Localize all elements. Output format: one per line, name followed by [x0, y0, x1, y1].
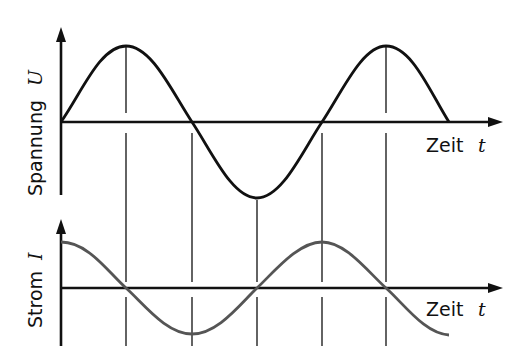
y-arrow-icon [56, 27, 66, 42]
y-arrow-icon [56, 219, 66, 234]
current-axis-label: Strom [24, 271, 46, 328]
current-symbol: I [24, 252, 46, 261]
x-arrow-icon [488, 117, 503, 127]
voltage-axis-label: Spannung [24, 100, 46, 196]
voltage-current-phase-diagram: Spannung U Zeit t Strom I Zeit t [0, 0, 528, 361]
voltage-symbol: U [24, 69, 46, 86]
time-axis-label-lower: Zeit [426, 298, 463, 320]
x-arrow-icon [488, 283, 503, 293]
guide-lines [126, 46, 386, 346]
voltage-axes [56, 27, 503, 195]
time-axis-label-upper: Zeit [426, 134, 463, 156]
time-symbol-lower: t [478, 298, 486, 320]
current-axes [56, 219, 503, 346]
time-symbol-upper: t [478, 134, 486, 156]
